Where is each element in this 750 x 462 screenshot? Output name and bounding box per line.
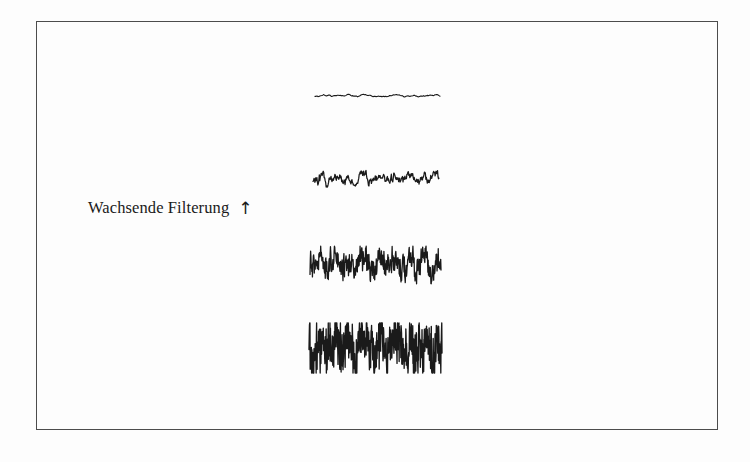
axis-annotation-label: Wachsende Filterung↑ (88, 198, 253, 218)
up-arrow-icon: ↑ (238, 198, 252, 218)
axis-label-text: Wachsende Filterung (88, 198, 229, 217)
figure-frame-border (36, 21, 718, 430)
figure-container: Wachsende Filterung↑ (0, 0, 750, 462)
